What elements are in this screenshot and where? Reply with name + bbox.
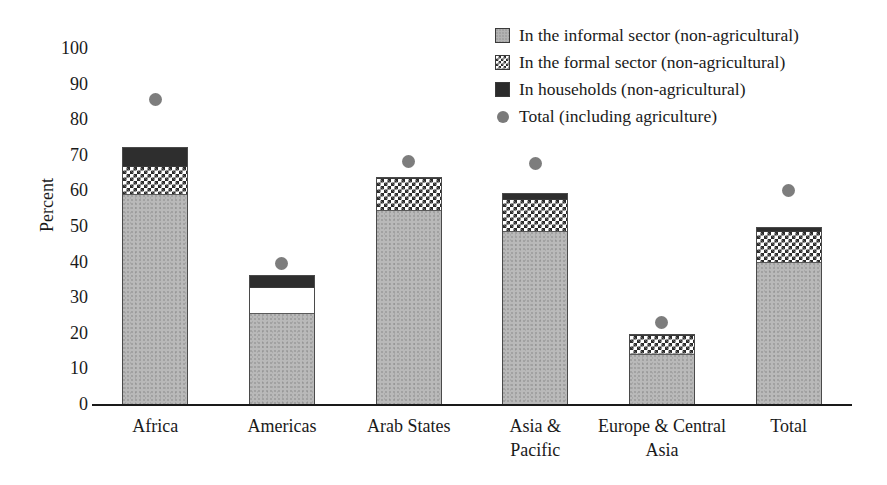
bar-segment-informal — [630, 354, 694, 404]
bar-segment-formal — [757, 231, 821, 261]
y-axis-tick-labels: 1009080706050403020100 — [46, 0, 88, 485]
bar-group-americas: Americas — [219, 0, 346, 485]
bar-segment-informal — [377, 210, 441, 404]
bar-segment-informal — [757, 262, 821, 404]
y-axis-tick-40: 40 — [46, 253, 88, 271]
chart-container: In the informal sector (non-agricultural… — [0, 0, 887, 485]
bar-group-africa: Africa — [92, 0, 219, 485]
total-point — [275, 257, 288, 270]
bar-segment-formal — [630, 335, 694, 355]
bar-stack[interactable] — [502, 193, 568, 404]
y-axis-tick-10: 10 — [46, 359, 88, 377]
bar-stack[interactable] — [249, 275, 315, 404]
total-point — [402, 155, 415, 168]
bar-segment-informal — [503, 231, 567, 404]
y-axis-tick-50: 50 — [46, 217, 88, 235]
y-axis-tick-80: 80 — [46, 110, 88, 128]
bar-segment-formal — [503, 199, 567, 231]
plot-area: Percent 1009080706050403020100 AfricaAme… — [0, 0, 887, 485]
bar-stack[interactable] — [376, 177, 442, 404]
bar-group-arab-states: Arab States — [345, 0, 472, 485]
bar-segment-households — [250, 276, 314, 287]
bar-segment-informal — [250, 313, 314, 404]
y-axis-tick-0: 0 — [46, 395, 88, 413]
total-point — [655, 316, 668, 329]
bar-segment-formal — [123, 166, 187, 194]
y-axis-tick-60: 60 — [46, 181, 88, 199]
y-axis-tick-20: 20 — [46, 324, 88, 342]
total-point — [149, 93, 162, 106]
bar-segment-formal — [377, 178, 441, 210]
bar-group-asia-pacific: Asia &Pacific — [472, 0, 599, 485]
bar-stack[interactable] — [756, 227, 822, 404]
y-axis-tick-100: 100 — [46, 39, 88, 57]
bar-group-total: Total — [725, 0, 852, 485]
y-axis-tick-70: 70 — [46, 146, 88, 164]
bars-layer: AfricaAmericasArab StatesAsia &PacificEu… — [92, 0, 852, 485]
bar-segment-formal — [250, 287, 314, 314]
bar-stack[interactable] — [629, 334, 695, 404]
total-point — [782, 184, 795, 197]
bar-segment-households — [123, 148, 187, 166]
x-axis-label-5: Total — [714, 414, 864, 438]
y-axis-tick-90: 90 — [46, 75, 88, 93]
bar-stack[interactable] — [122, 147, 188, 404]
total-point — [529, 157, 542, 170]
y-axis-tick-30: 30 — [46, 288, 88, 306]
bar-group-europe-central-asia: Europe & CentralAsia — [599, 0, 726, 485]
bar-segment-informal — [123, 194, 187, 404]
